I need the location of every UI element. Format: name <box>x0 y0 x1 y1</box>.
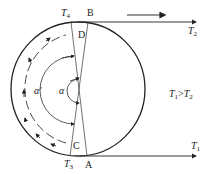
label-alpha: α <box>59 86 64 96</box>
angle-alpha-prime-arc <box>40 56 74 124</box>
flow-arrow-icon <box>29 58 31 63</box>
condition-text: T1>T2 <box>169 89 193 101</box>
label-A: A <box>85 160 92 170</box>
line-B-C <box>70 22 88 156</box>
label-T3: T3 <box>64 159 73 171</box>
label-B: B <box>87 8 94 18</box>
flow-arrow-icon <box>51 144 56 146</box>
label-T4: T4 <box>61 8 70 20</box>
label-T1: T1 <box>191 141 200 153</box>
flow-arrow-icon <box>25 118 26 122</box>
label-D: D <box>78 30 85 40</box>
diagram-canvas <box>0 0 205 174</box>
label-C: C <box>73 141 80 151</box>
flow-arrow-icon <box>36 134 40 138</box>
flow-arrow-icon <box>46 38 50 41</box>
rotor-circle <box>11 22 145 156</box>
label-T2: T2 <box>188 26 197 38</box>
angle-alpha-arc <box>67 79 79 103</box>
label-alpha-prime: α' <box>34 86 41 96</box>
